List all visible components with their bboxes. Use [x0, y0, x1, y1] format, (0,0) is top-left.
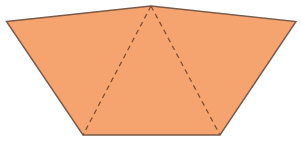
triangle-net-diagram: [0, 0, 301, 143]
net-outline: [7, 6, 297, 135]
